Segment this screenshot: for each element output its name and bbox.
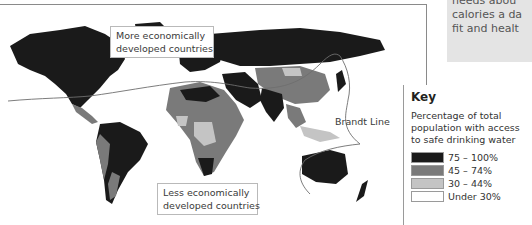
medc-line-1: More economically — [116, 29, 208, 42]
key-label: 30 – 44% — [448, 178, 492, 189]
key-row: Under 30% — [411, 190, 528, 203]
note-line-3: fit and healt — [452, 22, 532, 36]
key-title: Key — [411, 90, 528, 104]
map-key: Key Percentage of total population with … — [403, 85, 528, 225]
japan — [336, 70, 346, 92]
key-description: Percentage of total population with acce… — [411, 110, 529, 146]
sidebar-note: needs abou calories a da fit and healt — [447, 0, 532, 62]
key-label: Under 30% — [448, 191, 501, 202]
russia — [210, 28, 385, 66]
key-row: 30 – 44% — [411, 177, 528, 190]
key-rows: 75 – 100% 45 – 74% 30 – 44% Under 30% — [411, 151, 528, 203]
key-row: 45 – 74% — [411, 164, 528, 177]
medc-line-2: developed countries — [116, 42, 208, 55]
note-line-2: calories a da — [452, 8, 532, 22]
key-row: 75 – 100% — [411, 151, 528, 164]
australia — [302, 150, 348, 184]
southeast-asia — [286, 104, 306, 128]
medc-callout: More economically developed countries — [110, 26, 214, 58]
brandt-line-label: Brandt Line — [335, 116, 390, 127]
ledc-line-1: Less economically — [163, 186, 252, 199]
ledc-callout: Less economically developed countries — [157, 183, 258, 215]
swatch-under-30 — [411, 191, 444, 202]
note-line-1: needs abou — [452, 0, 532, 8]
central-america — [72, 104, 98, 124]
north-america — [10, 26, 125, 108]
swatch-75-100 — [411, 152, 444, 163]
key-label: 75 – 100% — [448, 152, 498, 163]
ledc-line-2: developed countries — [163, 199, 252, 212]
swatch-30-44 — [411, 178, 444, 189]
swatch-45-74 — [411, 165, 444, 176]
new-zealand — [356, 180, 368, 202]
key-label: 45 – 74% — [448, 165, 492, 176]
